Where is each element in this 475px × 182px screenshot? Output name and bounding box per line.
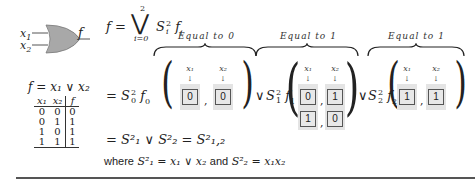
arrow-down-icon: ↓ [325,75,345,83]
group0-label: Equal to 0 [178,31,235,41]
group0-cell: 0 [182,89,198,105]
group2-cell: 1 [399,89,415,105]
arrow-down-icon: ↓ [213,75,233,83]
group0-header-x2: x₂ [213,64,233,73]
truth-table: x₁ x₂ f 0 0 0 0 1 1 1 0 1 1 1 1 [34,96,79,148]
arrow-down-icon: ↓ [180,75,200,83]
group1-label: Equal to 1 [280,31,337,41]
gate-output-f: f [78,25,83,40]
bottom-rule [16,177,475,179]
big-or-lower: i=0 [134,34,148,43]
group2-header-x2: x₂ [426,64,446,73]
function-definition: f = x₁ ∨ x₂ [28,80,90,94]
top-equation-lhs: f = [106,19,126,34]
group0-right-paren: ) [241,56,254,110]
or-symbol: ∨ [358,88,368,103]
group2-cell: 1 [428,89,444,105]
comma: , [320,94,324,107]
group1-cell: 0 [327,111,343,127]
gate-input-x2: x2 [20,39,31,52]
brace-group2-icon [366,43,466,57]
table-row: 1 1 1 [34,137,79,148]
group2-label: Equal to 1 [388,31,445,41]
truth-table-header: x₁ x₂ f [34,96,79,107]
group0-left-paren: ( [161,56,174,110]
expansion-equals: = [106,88,117,103]
group1-right-paren: ) [345,56,360,118]
group0-cell: 0 [215,89,231,105]
arrow-down-icon: ↓ [298,75,318,83]
comma: , [320,116,324,129]
group0-header-x1: x₁ [180,64,200,73]
comma: , [420,94,424,107]
arrow-down-icon: ↓ [397,75,417,83]
comma: , [204,94,208,107]
group1-header-x1: x₁ [298,64,318,73]
group1-cell: 1 [327,89,343,105]
or-symbol: ∨ [255,88,265,103]
where-line: where S²₁ = x₁ ∨ x₂ and S²₂ = x₁x₂ [104,155,285,168]
result-equation: = S²₁ ∨ S²₂ = S²₁,₂ [106,132,225,147]
group0-term: S20 f0 [121,88,150,105]
big-or-operator: ⋁ [131,12,149,34]
group2-right-paren: ) [454,56,467,110]
group1-header-x2: x₂ [325,64,345,73]
group1-cell: 0 [300,89,316,105]
group2-header-x1: x₁ [397,64,417,73]
group1-cell: 1 [300,111,316,127]
arrow-down-icon: ↓ [426,75,446,83]
